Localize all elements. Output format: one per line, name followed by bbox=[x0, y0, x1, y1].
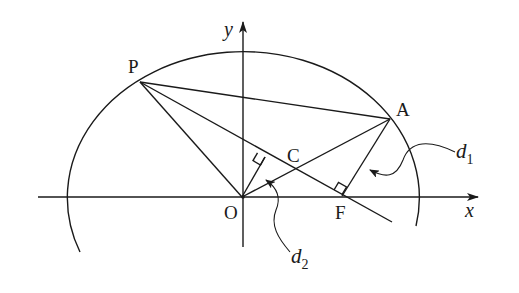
segment-PO bbox=[140, 82, 242, 197]
label-F: F bbox=[335, 202, 346, 223]
label-C: C bbox=[287, 145, 300, 166]
label-O: O bbox=[224, 202, 238, 223]
geometry-diagram: P A C O F x y d1 d2 bbox=[0, 0, 519, 293]
right-angle-marker-d2 bbox=[253, 153, 265, 165]
segment-AF bbox=[342, 119, 390, 196]
label-P: P bbox=[128, 56, 139, 77]
label-x-axis: x bbox=[464, 199, 474, 221]
d2-leader-curve bbox=[266, 180, 290, 252]
segment-PA bbox=[140, 82, 390, 119]
origin-point bbox=[241, 195, 245, 199]
label-d2: d2 bbox=[291, 244, 309, 272]
label-A: A bbox=[396, 99, 410, 120]
label-y-axis: y bbox=[222, 18, 233, 41]
label-d1: d1 bbox=[456, 139, 474, 167]
line-PF bbox=[140, 82, 392, 222]
